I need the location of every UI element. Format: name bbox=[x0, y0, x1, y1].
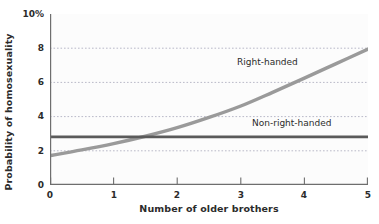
x-tick-label-1: 1 bbox=[104, 190, 124, 200]
chart-figure: Probability of homosexuality Right-hande… bbox=[0, 0, 379, 224]
series-label-right-handed: Right-handed bbox=[237, 57, 298, 67]
y-tick-label-0: 0 bbox=[10, 180, 44, 190]
y-tick-label-4: 4 bbox=[10, 111, 44, 121]
y-tick-label-10: 10% bbox=[10, 9, 44, 19]
x-tick-label-4: 4 bbox=[294, 190, 314, 200]
plot-background bbox=[50, 14, 368, 185]
x-tick-label-2: 2 bbox=[167, 190, 187, 200]
y-tick-label-6: 6 bbox=[10, 77, 44, 87]
series-label-non-right-handed: Non-right-handed bbox=[252, 118, 331, 128]
x-tick-label-5: 5 bbox=[358, 190, 378, 200]
y-tick-label-2: 2 bbox=[10, 146, 44, 156]
x-axis-title: Number of older brothers bbox=[50, 203, 368, 214]
x-tick-label-3: 3 bbox=[231, 190, 251, 200]
x-tick-label-0: 0 bbox=[40, 190, 60, 200]
plot-area: Right-handed Non-right-handed bbox=[50, 14, 368, 185]
y-tick-label-8: 8 bbox=[10, 43, 44, 53]
